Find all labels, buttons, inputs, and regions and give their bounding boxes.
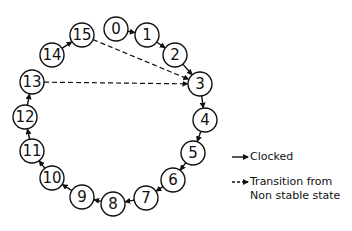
state-node-2: 2 bbox=[163, 43, 187, 67]
state-node-8: 8 bbox=[101, 192, 125, 216]
state-node-11: 11 bbox=[20, 139, 44, 163]
clocked-transition-6-to-7 bbox=[156, 187, 163, 191]
state-label: 14 bbox=[42, 46, 61, 64]
state-label: 2 bbox=[170, 46, 180, 64]
legend-clocked: Clocked bbox=[232, 150, 293, 163]
state-label: 0 bbox=[111, 20, 121, 38]
state-node-12: 12 bbox=[13, 105, 37, 129]
state-node-10: 10 bbox=[40, 166, 64, 190]
state-node-7: 7 bbox=[134, 186, 158, 210]
non-stable-transition-13-to-3 bbox=[44, 82, 188, 84]
legend: Clocked Transition from Non stable state bbox=[232, 150, 341, 202]
clocked-transition-5-to-6 bbox=[180, 163, 185, 170]
clocked-transition-3-to-4 bbox=[202, 96, 204, 108]
state-label: 3 bbox=[195, 75, 205, 93]
clocked-transition-2-to-3 bbox=[183, 64, 192, 74]
state-node-13: 13 bbox=[20, 70, 44, 94]
clocked-transition-1-to-2 bbox=[157, 42, 165, 48]
states: 0123456789101112131415 bbox=[13, 17, 217, 216]
state-node-5: 5 bbox=[181, 141, 205, 165]
state-label: 7 bbox=[141, 189, 151, 207]
clocked-transition-14-to-15 bbox=[62, 42, 72, 48]
clocked-transition-7-to-8 bbox=[125, 200, 134, 202]
legend-clocked-label: Clocked bbox=[250, 150, 293, 163]
state-diagram: 0123456789101112131415 Clocked Transitio… bbox=[0, 0, 352, 231]
state-label: 10 bbox=[42, 169, 61, 187]
state-node-6: 6 bbox=[161, 168, 185, 192]
state-node-1: 1 bbox=[135, 23, 159, 47]
state-node-4: 4 bbox=[193, 108, 217, 132]
state-label: 9 bbox=[77, 188, 87, 206]
state-label: 15 bbox=[72, 26, 91, 44]
state-node-15: 15 bbox=[70, 23, 94, 47]
state-label: 1 bbox=[142, 26, 152, 44]
legend-non-stable-label-line2: Non stable state bbox=[250, 189, 341, 202]
clocked-transition-0-to-1 bbox=[128, 31, 135, 32]
state-label: 13 bbox=[22, 73, 41, 91]
state-node-9: 9 bbox=[70, 185, 94, 209]
clocked-transition-8-to-9 bbox=[94, 200, 101, 202]
state-node-0: 0 bbox=[104, 17, 128, 41]
state-label: 12 bbox=[15, 108, 34, 126]
clocked-transition-12-to-13 bbox=[27, 94, 29, 105]
legend-non-stable: Transition from Non stable state bbox=[232, 175, 341, 202]
state-node-3: 3 bbox=[188, 72, 212, 96]
clocked-transition-11-to-12 bbox=[28, 129, 30, 139]
state-label: 6 bbox=[168, 171, 178, 189]
clocked-transition-4-to-5 bbox=[197, 131, 201, 141]
legend-non-stable-label-line1: Transition from bbox=[249, 175, 332, 188]
state-label: 11 bbox=[22, 142, 41, 160]
clocked-transition-10-to-11 bbox=[39, 161, 44, 168]
clocked-transition-9-to-10 bbox=[63, 185, 72, 191]
state-label: 4 bbox=[200, 111, 210, 129]
state-node-14: 14 bbox=[40, 43, 64, 67]
state-label: 8 bbox=[108, 195, 118, 213]
state-label: 5 bbox=[188, 144, 198, 162]
